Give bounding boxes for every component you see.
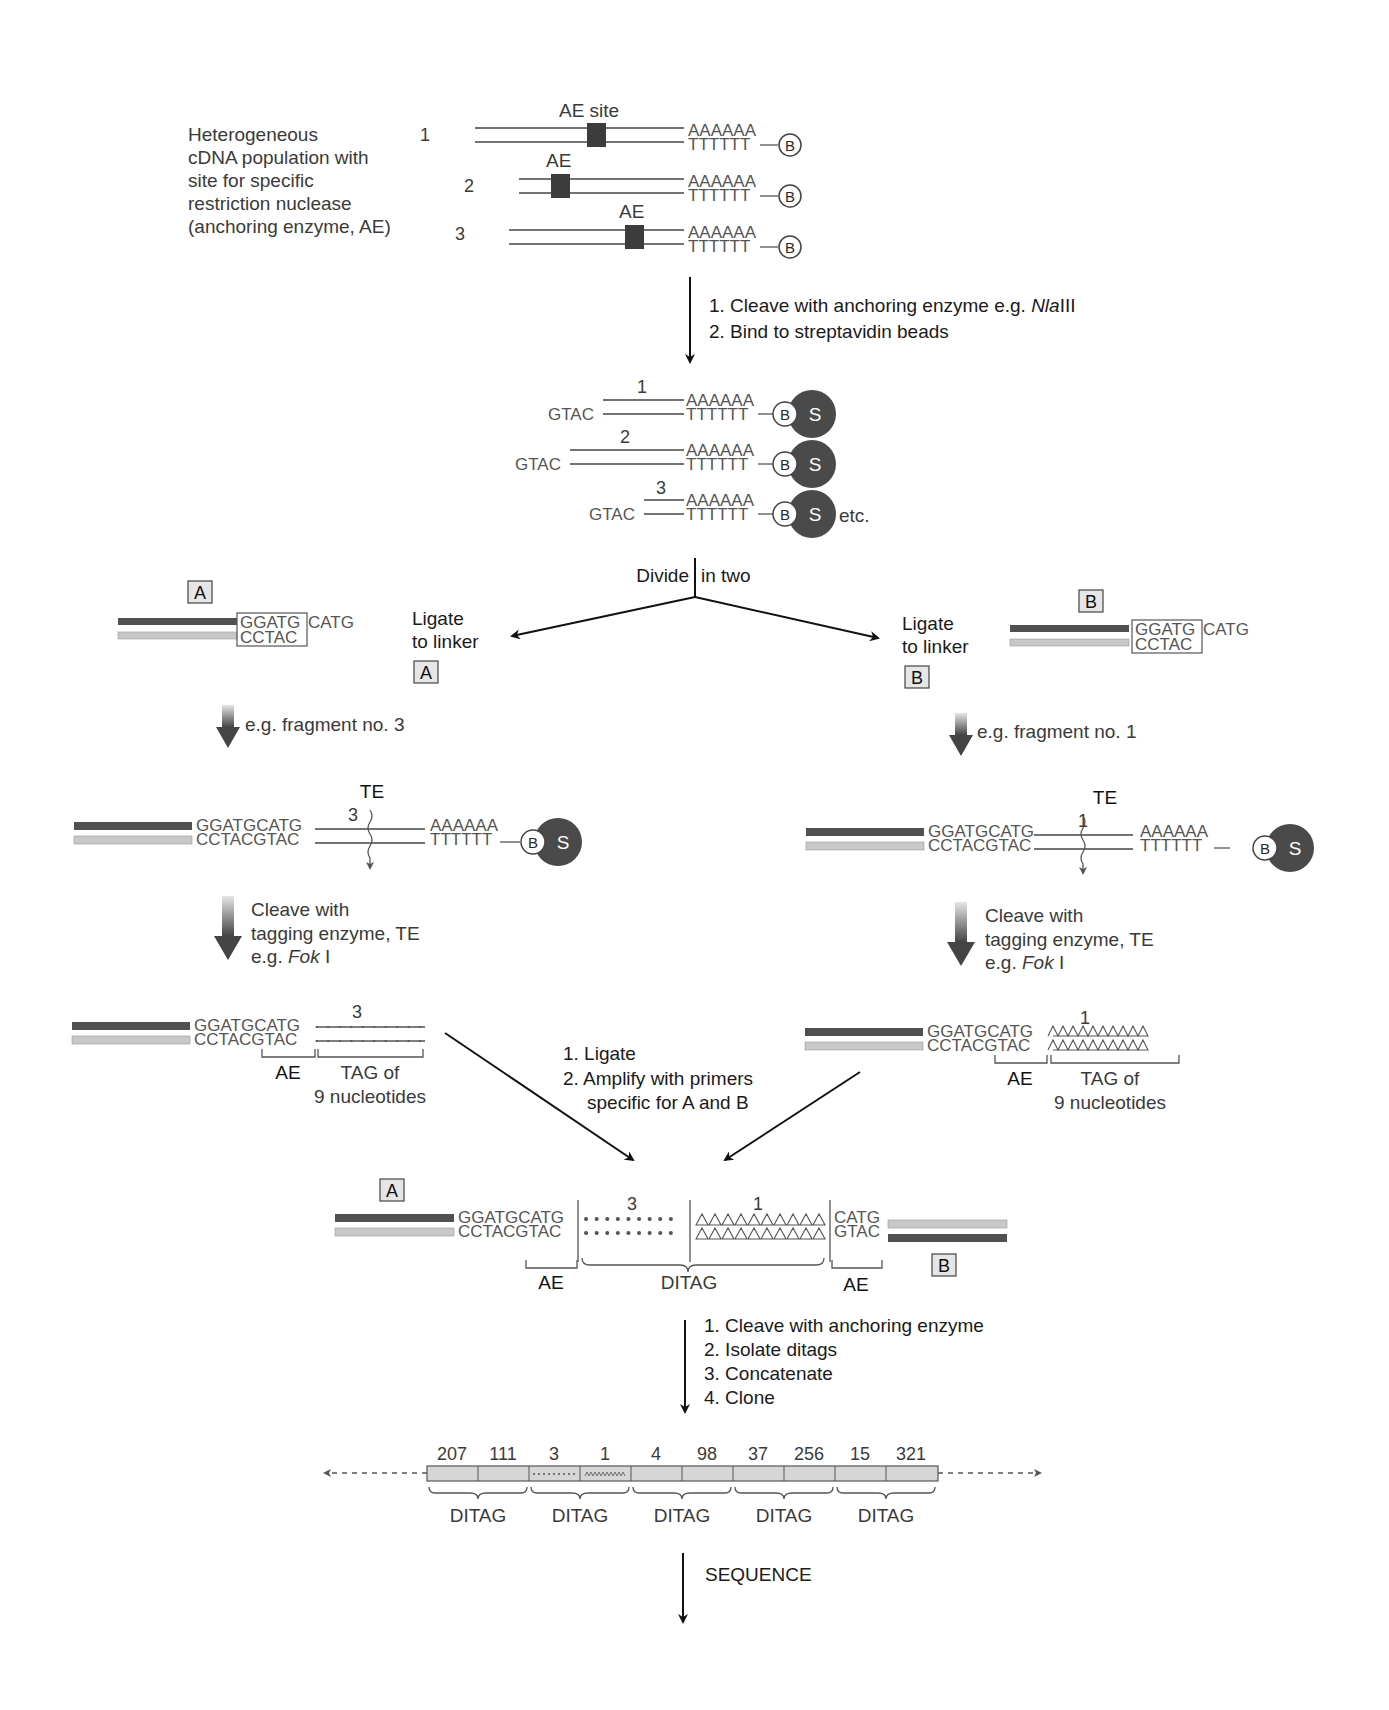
concatemer-tags-1-text: 111 — [489, 1444, 516, 1464]
ditag-box-b-text: B — [938, 1256, 950, 1276]
ligate-step-line3-text: specific for A and B — [587, 1092, 749, 1113]
ditag-tag-left-num-text: 3 — [627, 1194, 637, 1214]
intro-rows-2-biotin-text: B — [785, 239, 795, 256]
ligate-step-line2-text: 2. Amplify with primers — [563, 1068, 753, 1089]
right-branch-tag-seq-bottom-a-text: CCTAC — [927, 1036, 984, 1055]
beads-rows-1-num-text: 2 — [620, 427, 630, 447]
ditag-ae-right-text: AE — [843, 1274, 868, 1295]
cdna-row-3: 3 AE AAAAAA TTTTTT B — [455, 201, 801, 258]
beads-rows-0-bead-text: S — [809, 404, 822, 425]
intro-description-4-text: (anchoring enzyme, AE) — [188, 216, 391, 237]
beads-etc-text: etc. — [839, 505, 870, 526]
left-branch-biotin-text: B — [528, 834, 538, 851]
ae-site-box — [587, 123, 606, 147]
right-branch-cleave-enzyme-italic-text: Fok — [1022, 952, 1055, 973]
left-branch-ligate-line1-text: Ligate — [412, 608, 464, 629]
concatemer-ditag-labels-3-text: DITAG — [756, 1505, 813, 1526]
svg-text:e.g. Fok I: e.g. Fok I — [251, 946, 330, 967]
right-branch-fragment-note-text: e.g. fragment no. 1 — [977, 721, 1137, 742]
gradient-arrow-icon — [222, 896, 234, 936]
intro-rows-0-ae-label-text: AE site — [559, 100, 619, 121]
right-branch-linker-bottom-text: CCTAC — [1135, 635, 1192, 654]
left-branch-linker-tag-text: A — [194, 583, 206, 603]
beads-rows-0-overhang-text: GTAC — [548, 405, 594, 424]
right-branch-ligate-line2-text: to linker — [902, 636, 969, 657]
step1-line1-prefix-text: 1. Cleave with anchoring enzyme e.g. — [709, 295, 1031, 316]
beads-rows-2-polyT-text: TTTTTT — [686, 505, 748, 524]
step1-text: 1. Cleave with anchoring enzyme e.g. Nla… — [709, 295, 1075, 342]
split-arrow-right — [695, 597, 878, 638]
concatemer-tags-4-text: 4 — [651, 1444, 661, 1464]
intro-description: Heterogeneous cDNA population with site … — [188, 124, 391, 237]
left-branch-ligate-box-text: A — [420, 663, 432, 683]
intro-rows-1-ae-label-text: AE — [546, 150, 571, 171]
ditag-left-bottom-b-text: GTAC — [515, 1222, 561, 1241]
divide-label: Divide in two — [512, 558, 878, 638]
right-branch-linker-top-overhang-text: CATG — [1203, 620, 1249, 639]
right-tag: 1 GGATGCATG CCTACGTAC AE TAG of 9 nucleo… — [805, 1008, 1179, 1113]
step1-line1-enzyme-suffix-text: III — [1060, 295, 1076, 316]
concatemer-tags-5-text: 98 — [697, 1444, 717, 1464]
beads-rows-2-bead-text: S — [809, 504, 822, 525]
intro-rows-1-polyT-text: TTTTTT — [688, 186, 750, 205]
left-branch-tag-num-text: 3 — [352, 1002, 362, 1022]
ligate-step-line1-text: 1. Ligate — [563, 1043, 636, 1064]
concatemer-tags-2-text: 3 — [549, 1444, 559, 1464]
beads-rows-1-polyT-text: TTTTTT — [686, 455, 748, 474]
step1-line1-enzyme-italic-text: Nla — [1031, 295, 1060, 316]
left-tag: 3 GGATGCATG CCTACGTAC AE TAG of 9 nucleo… — [72, 1002, 426, 1107]
right-ligate-label: Ligate to linker B — [902, 613, 969, 688]
ditag-construct: A GGATGCATG CCTACGTAC 3 1 CATG GTAC AE D… — [335, 1179, 1007, 1295]
right-branch-ligate-line1-text: Ligate — [902, 613, 954, 634]
left-branch-linker-top-overhang-text: CATG — [308, 613, 354, 632]
intro-rows-2-ae-label-text: AE — [619, 201, 644, 222]
concatemer-ditag-labels-4-text: DITAG — [858, 1505, 915, 1526]
intro-rows-1-num-text: 2 — [464, 176, 474, 196]
svg-text:e.g. Fok I: e.g. Fok I — [985, 952, 1064, 973]
right-branch-bead-text: S — [1289, 838, 1302, 859]
final-steps-0-text: 1. Cleave with anchoring enzyme — [704, 1315, 984, 1336]
concatemer-tags-7-text: 256 — [794, 1444, 824, 1464]
left-branch-cleave-enzyme-suffix-text: I — [320, 946, 331, 967]
gradient-arrow-icon — [222, 705, 234, 727]
beads-rows-2-num-text: 3 — [656, 478, 666, 498]
beads-rows-2-biotin-text: B — [780, 506, 790, 523]
ditag-tag-right-num-text: 1 — [753, 1194, 763, 1214]
cdna-row-2: 2 AE AAAAAA TTTTTT B — [464, 150, 801, 207]
right-branch-cleave-line3-prefix-text: e.g. — [985, 952, 1022, 973]
right-branch-seq-bottom-text: CCTACGTAC — [928, 836, 1031, 855]
right-branch-tag-label-line1-text: TAG of — [1081, 1068, 1140, 1089]
beads-rows-1-bead-text: S — [809, 454, 822, 475]
divide-right-text: in two — [701, 565, 751, 586]
final-steps-text: 1. Cleave with anchoring enzyme 2. Isola… — [704, 1315, 984, 1408]
left-branch-fragment-num-text: 3 — [348, 805, 358, 825]
sage-diagram: Heterogeneous cDNA population with site … — [0, 0, 1389, 1710]
right-branch-cleave-line2-text: tagging enzyme, TE — [985, 929, 1154, 950]
bead-row-2: 2 GTAC AAAAAA TTTTTT B S — [515, 427, 836, 488]
intro-rows-2-num-text: 3 — [455, 224, 465, 244]
right-branch-tag-num-text: 1 — [1080, 1008, 1090, 1028]
concatemer-tags-8-text: 15 — [850, 1444, 870, 1464]
intro-rows-0-num-text: 1 — [420, 125, 430, 145]
beads-rows-1-overhang-text: GTAC — [515, 455, 561, 474]
svg-text:CCTACGTAC: CCTACGTAC — [194, 1030, 297, 1049]
left-branch-te-label-text: TE — [360, 781, 384, 802]
step1-line2-text: 2. Bind to streptavidin beads — [709, 321, 949, 342]
right-branch-ligate-box-text: B — [911, 668, 923, 688]
left-branch-tag-seq-bottom-b-text: GTAC — [251, 1030, 297, 1049]
bead-row-1: 1 GTAC AAAAAA TTTTTT B S — [548, 377, 836, 438]
intro-description-1-text: cDNA population with — [188, 147, 369, 168]
left-branch-cleave-line3-prefix-text: e.g. — [251, 946, 288, 967]
left-branch-bead-text: S — [557, 832, 570, 853]
tag-triangles — [1048, 1026, 1148, 1050]
final-steps-2-text: 3. Concatenate — [704, 1363, 833, 1384]
right-branch-cleave-enzyme-suffix-text: I — [1054, 952, 1065, 973]
left-branch-cleave-enzyme-italic-text: Fok — [288, 946, 321, 967]
left-branch-fragment-note-text: e.g. fragment no. 3 — [245, 714, 405, 735]
ae-site-box — [551, 174, 570, 198]
right-branch-linker-tag-text: B — [1085, 592, 1097, 612]
ae-site-box — [625, 225, 644, 249]
ligate-step-text: 1. Ligate 2. Amplify with primers specif… — [563, 1043, 753, 1113]
beads-rows-2-overhang-text: GTAC — [589, 505, 635, 524]
left-branch-tag-label-line2-text: 9 nucleotides — [314, 1086, 426, 1107]
